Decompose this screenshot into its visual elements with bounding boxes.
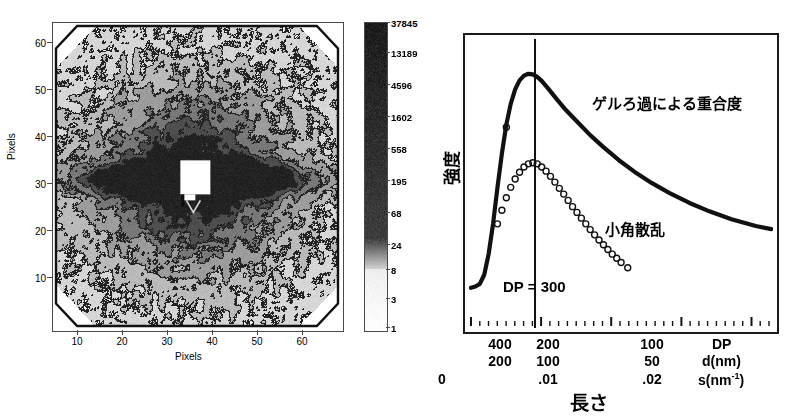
y-tick-mark [47,183,52,184]
data-point [592,232,598,238]
colorbar-tick [386,327,390,328]
data-point [494,221,500,227]
colorbar-label: 37845 [391,18,417,29]
y-tick-mark [47,277,52,278]
data-point [512,176,518,182]
saxs-scatter-series [494,160,630,271]
s-label-prefix: s(nm [698,372,731,388]
data-point [583,221,589,227]
contour-plot-area [52,22,344,332]
x-tick-label: 10 [62,336,92,347]
colorbar-tick [386,180,390,181]
s-label-suffix: ) [739,372,744,388]
y-tick-label: 30 [20,179,46,190]
data-point [556,185,562,191]
y-tick-label: 20 [20,226,46,237]
y-tick-mark [47,136,52,137]
xaxis-dp-tick: 400 [480,336,520,352]
colorbar-label: 24 [391,240,402,251]
xaxis-s-tick: 0 [427,371,457,387]
data-point [517,169,523,175]
colorbar-label: 195 [391,176,407,187]
y-tick-label: 60 [20,38,46,49]
data-point [499,207,505,213]
y-tick-mark [47,89,52,90]
xaxis-d-tick: 100 [528,353,568,369]
intensity-profile-panel: 強度 ゲルろ過による重合度 小角散乱 DP = 300 400 200 100 … [430,0,794,419]
y-tick-mark [47,230,52,231]
colorbar-label: 558 [391,144,407,155]
x-axis-label: 長さ [570,388,608,415]
colorbar-label: 8 [391,265,396,276]
x-axis-ticks [471,317,769,326]
xaxis-dp-tick: 100 [632,336,672,352]
colorbar-label: 13189 [391,48,417,59]
y-tick-mark [47,42,52,43]
data-point [625,265,631,271]
data-point [508,184,514,190]
x-tick-mark [212,330,213,335]
x-tick-mark [167,330,168,335]
colorbar-tick [386,212,390,213]
colorbar-tick [386,148,390,149]
y-axis-label: Pixels [6,133,17,160]
xaxis-row-label-dp: DP [712,336,731,352]
x-axis-label: Pixels [175,351,202,362]
data-point [552,179,558,185]
colorbar-label: 1 [391,323,396,334]
x-tick-label: 60 [287,336,317,347]
data-point [565,197,571,203]
colorbar-gradient [365,23,387,331]
x-tick-mark [302,330,303,335]
data-point [578,215,584,221]
colorbar-label: 68 [391,208,402,219]
curve-annotation-saxs: 小角散乱 [605,218,665,239]
colorbar-tick [386,269,390,270]
x-tick-label: 20 [107,336,137,347]
x-tick-label: 30 [152,336,182,347]
colorbar-label: 1602 [391,112,412,123]
xaxis-row-label-s: s(nm-1) [698,371,744,388]
xaxis-row-label-d: d(nm) [702,353,741,369]
contour-panel: 60 50 40 30 20 10 10 20 30 40 50 60 Pixe… [0,0,430,419]
data-point [587,227,593,233]
colorbar-label: 4596 [391,80,412,91]
data-point [503,195,509,201]
data-point [618,260,624,266]
x-tick-mark [77,330,78,335]
colorbar-tick [386,22,390,23]
xaxis-dp-tick: 200 [528,336,568,352]
xaxis-s-tick: .02 [632,371,672,387]
data-point [547,173,553,179]
colorbar-tick [386,244,390,245]
xaxis-d-tick: 50 [632,353,672,369]
colorbar-tick [386,298,390,299]
x-tick-mark [257,330,258,335]
x-tick-label: 40 [197,336,227,347]
colorbar-label: 3 [391,294,396,305]
y-tick-label: 50 [20,85,46,96]
figure-root: 60 50 40 30 20 10 10 20 30 40 50 60 Pixe… [0,0,794,419]
y-axis-label: 強度 [438,151,463,185]
x-tick-mark [122,330,123,335]
curve-annotation-gel: ゲルろ過による重合度 [592,92,742,113]
vline-annotation: DP = 300 [503,278,566,295]
xaxis-s-tick: .01 [528,371,568,387]
colorbar-tick [386,52,390,53]
data-point [543,168,549,174]
y-tick-label: 10 [20,273,46,284]
y-tick-label: 40 [20,132,46,143]
data-point [570,204,576,210]
xaxis-d-tick: 200 [480,353,520,369]
colorbar [364,22,388,332]
colorbar-tick [386,116,390,117]
x-tick-label: 50 [242,336,272,347]
data-point [561,191,567,197]
data-point [574,209,580,215]
colorbar-tick [386,84,390,85]
contour-canvas [53,23,341,329]
